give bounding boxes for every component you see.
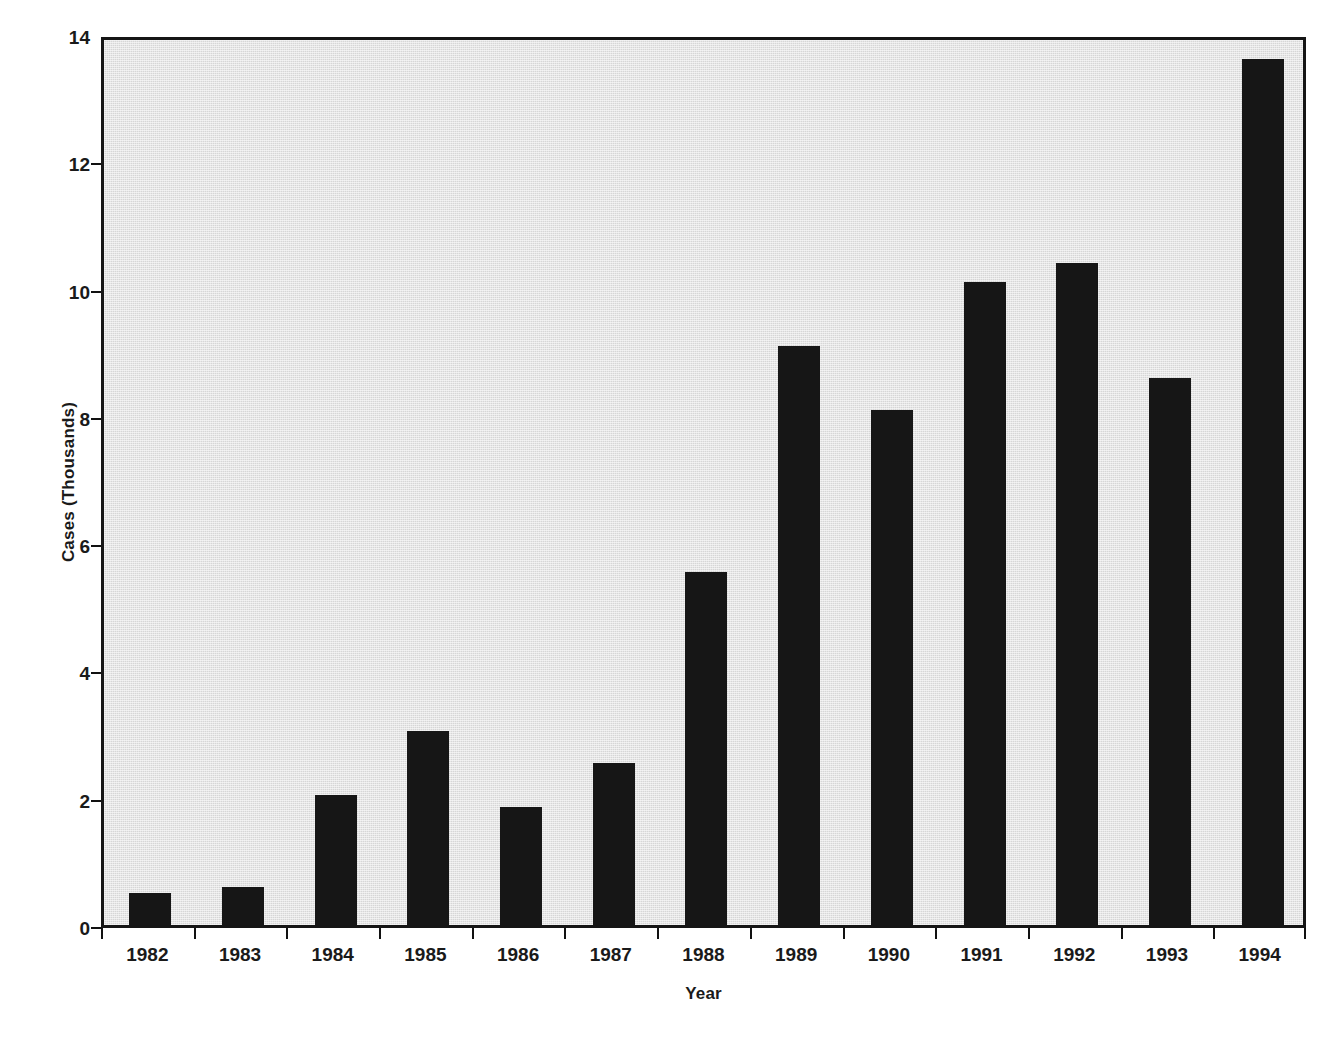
x-axis-tick-mark [286, 928, 288, 939]
x-axis-tick-label: 1983 [194, 944, 286, 966]
bar-chart-figure: Cases (Thousands) 02468101214 1982198319… [0, 0, 1343, 1039]
bar-slot [660, 40, 753, 925]
x-axis-tick-mark [1121, 928, 1123, 939]
x-axis-tick-label: 1985 [379, 944, 471, 966]
x-axis-tick-label: 1988 [658, 944, 750, 966]
bar-slot [475, 40, 568, 925]
bar[interactable] [593, 763, 635, 925]
x-axis-tick-mark [1213, 928, 1215, 939]
y-axis-tick-label: 4 [46, 664, 90, 683]
x-axis-tick-label: 1986 [472, 944, 564, 966]
bar[interactable] [1056, 263, 1098, 925]
y-axis-tick-label: 6 [46, 537, 90, 556]
x-axis-tick-mark [1028, 928, 1030, 939]
bar-slot [753, 40, 846, 925]
x-axis-tick-label: 1982 [101, 944, 193, 966]
bar[interactable] [1242, 59, 1284, 925]
bar-slot [567, 40, 660, 925]
x-axis-tick-mark [935, 928, 937, 939]
bar[interactable] [407, 731, 449, 925]
bar-series [104, 40, 1303, 925]
x-axis-tick-label: 1994 [1214, 944, 1306, 966]
bar-slot [382, 40, 475, 925]
bar[interactable] [500, 807, 542, 925]
x-axis-tick-label: 1990 [843, 944, 935, 966]
bar[interactable] [1149, 378, 1191, 925]
bar[interactable] [964, 282, 1006, 925]
x-axis-tick-label: 1984 [287, 944, 379, 966]
bar[interactable] [222, 887, 264, 925]
x-axis-tick-mark [843, 928, 845, 939]
x-axis-tick-mark [564, 928, 566, 939]
bar-slot [1216, 40, 1309, 925]
bar[interactable] [315, 795, 357, 925]
bar-slot [938, 40, 1031, 925]
bar-slot [1031, 40, 1124, 925]
x-axis-tick-mark [101, 928, 103, 939]
plot-area [101, 37, 1306, 928]
bar[interactable] [129, 893, 171, 925]
bar-slot [104, 40, 197, 925]
y-axis-tick-label: 12 [46, 155, 90, 174]
bar-slot [1124, 40, 1217, 925]
y-axis-tick-label: 10 [46, 283, 90, 302]
x-axis-tick-label: 1993 [1121, 944, 1213, 966]
y-axis-tick-label: 2 [46, 792, 90, 811]
bar-slot [846, 40, 939, 925]
y-axis-tick-label: 8 [46, 410, 90, 429]
x-axis-tick-mark [472, 928, 474, 939]
bar-slot [289, 40, 382, 925]
x-axis-tick-label: 1989 [750, 944, 842, 966]
x-axis-tick-mark [379, 928, 381, 939]
bar[interactable] [871, 410, 913, 926]
x-axis-tick-mark [657, 928, 659, 939]
x-axis-tick-mark [1304, 928, 1306, 939]
x-axis-title: Year [101, 984, 1306, 1004]
bar-slot [197, 40, 290, 925]
x-axis-tick-label: 1991 [936, 944, 1028, 966]
x-axis-tick-labels: 1982198319841985198619871988198919901991… [101, 944, 1306, 972]
bar[interactable] [778, 346, 820, 925]
y-axis-tick-label: 14 [46, 28, 90, 47]
bar[interactable] [685, 572, 727, 925]
x-axis-ticks [101, 928, 1306, 940]
y-axis-tick-label: 0 [46, 919, 90, 938]
x-axis-tick-label: 1992 [1028, 944, 1120, 966]
x-axis-tick-mark [750, 928, 752, 939]
x-axis-tick-label: 1987 [565, 944, 657, 966]
x-axis-tick-mark [194, 928, 196, 939]
